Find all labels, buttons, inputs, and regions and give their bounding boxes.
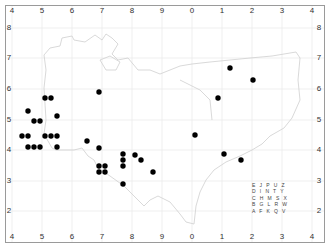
y-tick-label-right: 6 [317, 85, 321, 93]
legend-row: A F K Q V [252, 208, 288, 214]
x-tick-label-bottom: 1 [220, 233, 224, 241]
x-tick-label-top: 4 [10, 7, 14, 15]
x-tick-label-bottom: 4 [310, 233, 314, 241]
x-tick-label-top: 4 [310, 7, 314, 15]
x-tick-label-top: 6 [70, 7, 74, 15]
y-tick-label-left: 5 [7, 116, 11, 124]
x-tick-label-bottom: 3 [280, 233, 284, 241]
y-tick-label-left: 3 [7, 177, 11, 185]
y-tick-label-right: 7 [317, 54, 321, 62]
x-tick-label-top: 7 [100, 7, 104, 15]
distribution-map: 445566778899001122334488776655443322 E J… [0, 0, 329, 250]
y-tick-label-left: 6 [7, 85, 11, 93]
x-tick-label-bottom: 7 [100, 233, 104, 241]
y-tick-label-left: 4 [7, 146, 11, 154]
x-tick-label-bottom: 6 [70, 233, 74, 241]
y-tick-label-left: 8 [7, 24, 11, 32]
x-tick-label-bottom: 4 [10, 233, 14, 241]
x-tick-label-bottom: 0 [190, 233, 194, 241]
y-tick-label-right: 5 [317, 116, 321, 124]
grid-reference-key: E J P U Z D I N T Y C H M S X B G L R W … [252, 182, 288, 214]
x-tick-label-top: 8 [130, 7, 134, 15]
y-tick-label-left: 7 [7, 54, 11, 62]
x-tick-label-top: 5 [40, 7, 44, 15]
x-tick-label-bottom: 2 [250, 233, 254, 241]
x-tick-label-top: 9 [160, 7, 164, 15]
x-tick-label-top: 0 [190, 7, 194, 15]
x-tick-label-bottom: 5 [40, 233, 44, 241]
legend-row: B G L R W [252, 201, 288, 207]
x-tick-label-top: 2 [250, 7, 254, 15]
legend-row: D I N T Y [252, 188, 288, 194]
y-tick-label-right: 3 [317, 177, 321, 185]
x-tick-label-top: 3 [280, 7, 284, 15]
y-tick-label-left: 2 [7, 207, 11, 215]
y-tick-label-right: 4 [317, 146, 321, 154]
y-tick-label-right: 8 [317, 24, 321, 32]
x-tick-label-bottom: 8 [130, 233, 134, 241]
y-tick-label-right: 2 [317, 207, 321, 215]
x-tick-label-top: 1 [220, 7, 224, 15]
x-tick-label-bottom: 9 [160, 233, 164, 241]
